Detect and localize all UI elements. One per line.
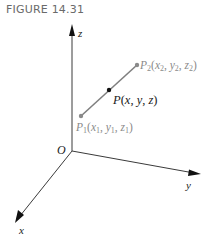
diagram-canvas: z y x O P2(x2, y2, z2) P(x, y, z) P1(x1,… [0, 0, 221, 238]
p2-label: P2(x2, y2, z2) [139, 59, 197, 73]
y-axis-label: y [185, 179, 191, 191]
x-axis [15, 151, 72, 223]
z-axis [69, 24, 75, 151]
x-axis-label: x [18, 224, 24, 236]
origin-label: O [57, 143, 66, 157]
p-label: P(x, y, z) [112, 93, 157, 107]
z-axis-arrow-icon [69, 24, 75, 36]
y-axis-arrow-icon [188, 170, 201, 177]
p1-label: P1(x1, y1, z1) [75, 121, 133, 135]
point-p2 [135, 63, 139, 67]
point-p1 [79, 114, 83, 118]
z-axis-label: z [77, 27, 83, 39]
y-axis [72, 151, 201, 176]
point-p [107, 88, 111, 92]
